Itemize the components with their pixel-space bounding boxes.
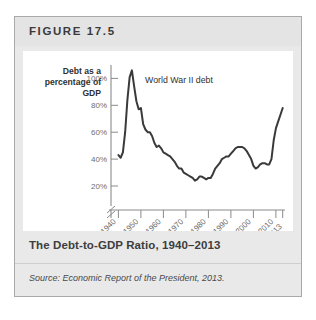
figure-source: Source: Economic Report of the President… [29,273,225,283]
y-tick-label-100: 100% [87,74,107,83]
x-tick-label-1940: 1940 [99,217,118,231]
debt-series-line [118,70,282,180]
x-tick-label-1980: 1980 [189,217,208,231]
y-tick-label-80: 80% [91,101,107,110]
x-tick-label-1950: 1950 [121,217,140,231]
x-tick-label-1970: 1970 [166,217,185,231]
chart-plot-panel: Debt as a percentage of GDP 100% 80% 60%… [23,51,293,231]
x-axis-tick-labels: 1940 1950 1960 1970 1980 1990 2000 2010 … [99,217,284,231]
source-divider [15,263,301,264]
x-tick-label-1960: 1960 [144,217,163,231]
figure-card: FIGURE 17.5 Debt as a percentage of GDP … [14,16,302,297]
debt-to-gdp-line-chart: Debt as a percentage of GDP 100% 80% 60%… [23,51,293,231]
x-tick-label-1990: 1990 [211,217,230,231]
y-axis-title-line-3: GDP [82,88,101,98]
figure-caption: The Debt-to-GDP Ratio, 1940–2013 [29,239,221,251]
y-tick-label-20: 20% [91,182,107,191]
figure-label: FIGURE 17.5 [29,25,116,37]
x-tick-label-2000: 2000 [234,217,253,231]
y-tick-label-60: 60% [91,128,107,137]
y-tick-label-40: 40% [91,155,107,164]
annotation-world-war-ii-debt: World War II debt [145,75,214,85]
